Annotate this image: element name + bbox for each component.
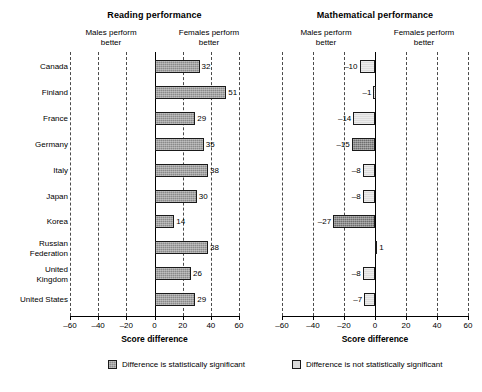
- x-tick: [468, 316, 469, 320]
- males-label-line1: Males perform: [287, 28, 365, 38]
- bar-value-label: –8: [343, 269, 361, 278]
- bar-value-label: –27: [313, 217, 331, 226]
- bar-value-label: –8: [343, 166, 361, 175]
- bar: [360, 60, 376, 73]
- x-tick: [344, 316, 345, 320]
- bar: [363, 164, 375, 177]
- bar-value-label: –10: [340, 62, 358, 71]
- x-tick-label: 0: [360, 321, 390, 330]
- males-perform-better-label: Males performbetter: [287, 28, 365, 48]
- gridline: [313, 52, 314, 316]
- x-tick: [282, 316, 283, 320]
- legend-item-not_significant: Difference is not statistically signific…: [292, 360, 442, 369]
- bar-value-label: –7: [344, 295, 362, 304]
- gridline: [282, 52, 283, 316]
- chart-panel-2: Mathematical performanceMales performbet…: [0, 0, 482, 348]
- panel-title: Mathematical performance: [272, 10, 478, 20]
- x-tick: [437, 316, 438, 320]
- bar: [373, 86, 375, 99]
- x-tick: [375, 316, 376, 320]
- legend-swatch-significant: [108, 360, 117, 369]
- x-tick: [406, 316, 407, 320]
- gridline: [437, 52, 438, 316]
- x-tick-label: 20: [391, 321, 421, 330]
- bar-value-label: –15: [332, 140, 350, 149]
- gridline: [468, 52, 469, 316]
- bar: [333, 215, 375, 228]
- x-tick: [313, 316, 314, 320]
- bar: [353, 112, 375, 125]
- bar: [363, 190, 375, 203]
- legend-label-not_significant: Difference is not statistically signific…: [306, 360, 442, 369]
- males-label-line2: better: [287, 38, 365, 48]
- bar-value-label: –8: [343, 192, 361, 201]
- bar-value-label: –1: [353, 88, 371, 97]
- bar: [363, 267, 375, 280]
- x-tick-label: –40: [298, 321, 328, 330]
- gridline: [406, 52, 407, 316]
- x-tick-label: –20: [329, 321, 359, 330]
- females-label-line1: Females perform: [385, 28, 463, 38]
- x-tick-label: –60: [267, 321, 297, 330]
- bar: [352, 138, 375, 151]
- legend-label-significant: Difference is statistically significant: [122, 360, 245, 369]
- females-perform-better-label: Females performbetter: [385, 28, 463, 48]
- females-label-line2: better: [385, 38, 463, 48]
- bar: [375, 241, 377, 254]
- legend-item-significant: Difference is statistically significant: [108, 360, 245, 369]
- chart-legend: Difference is statistically significantD…: [0, 356, 482, 378]
- chart-figure: Reading performanceMales performbetterFe…: [0, 0, 482, 392]
- bar: [364, 293, 375, 306]
- bar-value-label: 1: [379, 243, 383, 252]
- x-tick-label: 60: [453, 321, 482, 330]
- legend-swatch-not_significant: [292, 360, 301, 369]
- bar-value-label: –14: [333, 114, 351, 123]
- x-tick-label: 40: [422, 321, 452, 330]
- x-axis-title: Score difference: [282, 334, 468, 344]
